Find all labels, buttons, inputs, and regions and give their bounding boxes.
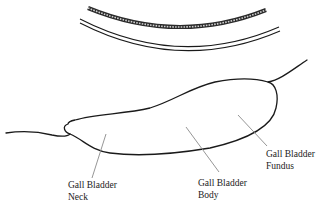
gallbladder-diagram — [0, 0, 321, 206]
label-fundus-line2: Fundus — [266, 160, 315, 172]
label-gallbladder-fundus: Gall Bladder Fundus — [266, 148, 315, 172]
label-gallbladder-neck: Gall Bladder Neck — [68, 179, 117, 203]
gallbladder-outline — [64, 79, 277, 155]
hatched-tissue-band — [88, 8, 266, 27]
double-line-layer — [80, 19, 280, 51]
leader-line-fundus — [238, 115, 267, 146]
leader-line-body — [186, 127, 219, 172]
label-gallbladder-body: Gall Bladder Body — [198, 177, 247, 201]
label-body-line1: Gall Bladder — [198, 177, 247, 189]
label-neck-line1: Gall Bladder — [68, 179, 117, 191]
leader-line-neck — [92, 134, 106, 178]
cystic-duct — [6, 132, 70, 137]
fundus-duct — [268, 60, 307, 82]
label-neck-line2: Neck — [68, 191, 117, 203]
label-fundus-line1: Gall Bladder — [266, 148, 315, 160]
label-body-line2: Body — [198, 189, 247, 201]
